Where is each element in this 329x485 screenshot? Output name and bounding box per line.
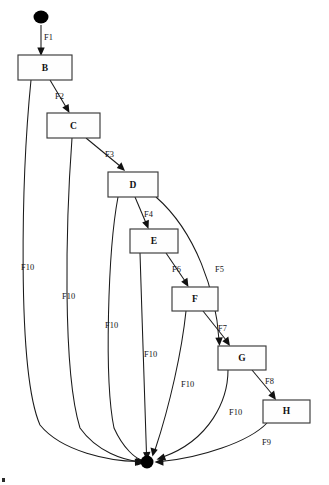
node-layer: B C D E F G H <box>18 55 310 423</box>
edge-label-F6: F6 <box>172 265 181 274</box>
node-G-label: G <box>238 353 246 363</box>
node-F[interactable]: F <box>172 287 218 311</box>
edge-F3-arrowhead <box>117 162 125 171</box>
node-H-label: H <box>283 406 291 416</box>
edge-label-F10-D: F10 <box>105 321 118 330</box>
edge-label-F4: F4 <box>144 210 154 219</box>
edge-label-F9: F9 <box>262 438 271 447</box>
node-H[interactable]: H <box>263 400 310 423</box>
edge-F9[interactable] <box>155 423 268 466</box>
edge-label-F3: F3 <box>105 150 114 159</box>
edge-F3-line <box>86 138 120 166</box>
start-node[interactable] <box>34 11 49 24</box>
edge-label-F10-E: F10 <box>144 350 157 359</box>
end-node[interactable] <box>141 456 154 469</box>
edge-F10-F-arrowhead <box>151 447 158 456</box>
state-diagram-canvas: B C D E F G H <box>0 0 329 485</box>
node-E[interactable]: E <box>130 229 178 253</box>
node-B-label: B <box>42 63 49 73</box>
edge-label-F10-G: F10 <box>229 408 242 417</box>
node-D-label: D <box>129 180 136 190</box>
node-B[interactable]: B <box>18 55 72 80</box>
edge-label-F5: F5 <box>215 265 224 274</box>
edge-label-F7: F7 <box>218 324 227 333</box>
edge-label-F8: F8 <box>265 377 274 386</box>
node-F-label: F <box>192 294 198 304</box>
edge-F2-arrowhead <box>62 104 69 113</box>
state-diagram-svg: B C D E F G H <box>0 0 329 485</box>
edge-F9-line <box>161 423 267 462</box>
edge-label-F10-C: F10 <box>62 292 75 301</box>
node-C-label: C <box>70 121 77 131</box>
scan-artifact <box>2 478 5 482</box>
node-E-label: E <box>151 236 158 246</box>
edge-F8-arrowhead <box>268 391 276 400</box>
edge-label-F2: F2 <box>55 92 64 101</box>
edge-label-F1: F1 <box>44 33 53 42</box>
node-C[interactable]: C <box>47 113 100 138</box>
edge-F6-arrowhead <box>181 278 188 287</box>
node-G[interactable]: G <box>218 346 266 370</box>
edge-label-F10-F: F10 <box>181 380 194 389</box>
node-D[interactable]: D <box>108 172 158 197</box>
edge-F5-arrowhead <box>215 337 223 346</box>
edge-label-F10-B: F10 <box>21 263 34 272</box>
edge-F7-arrowhead <box>222 337 230 346</box>
edge-F10-G-arrowhead <box>157 454 167 461</box>
edge-F10-G-line <box>163 370 228 457</box>
